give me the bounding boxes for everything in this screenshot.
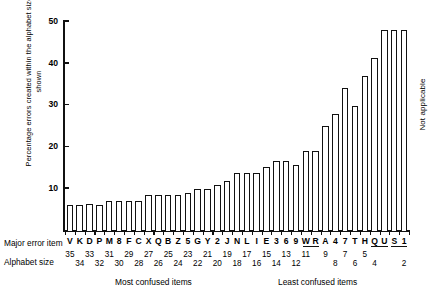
bar: [293, 165, 299, 231]
x-axis-tick: [340, 230, 341, 235]
alphabet-size-label: 8: [326, 260, 344, 268]
x-axis-tick: [281, 230, 282, 235]
x-axis-tick: [291, 230, 292, 235]
bar: [126, 201, 132, 231]
y-axis-tick-label: 30: [18, 100, 58, 109]
x-axis-tick: [94, 230, 95, 235]
bar: [352, 106, 358, 231]
bar: [332, 114, 338, 231]
alphabet-size-label: 19: [218, 251, 236, 259]
x-axis-tick: [360, 230, 361, 235]
x-axis-tick: [163, 230, 164, 235]
x-axis-tick: [271, 230, 272, 235]
chart-figure: Percentage errors created within the alp…: [0, 0, 434, 299]
x-axis-tick: [75, 230, 76, 235]
alphabet-size-label: 4: [366, 260, 384, 268]
x-axis-tick: [104, 230, 105, 235]
x-axis-tick: [153, 230, 154, 235]
y-axis-tick-label: 10: [18, 184, 58, 193]
bar: [322, 126, 328, 231]
bar: [401, 30, 407, 231]
x-axis-tick: [144, 230, 145, 235]
bar: [67, 205, 73, 231]
x-axis-tick: [330, 230, 331, 235]
x-axis-item-label: 1: [396, 237, 412, 246]
alphabet-size-label: 26: [149, 260, 167, 268]
group-underline: [371, 246, 387, 247]
bar: [116, 201, 122, 231]
group-underline: [391, 246, 407, 247]
bar: [224, 181, 230, 231]
bar: [76, 205, 82, 231]
x-axis-tick: [262, 230, 263, 235]
alphabet-size-label: 12: [287, 260, 305, 268]
bar: [391, 30, 397, 231]
alphabet-size-label: 24: [169, 260, 187, 268]
y-axis-tick-label: 40: [18, 59, 58, 68]
bar: [342, 88, 348, 231]
x-axis-tick: [409, 230, 410, 235]
alphabet-size-label: 15: [257, 251, 275, 259]
x-axis-tick: [193, 230, 194, 235]
alphabet-size-label: 34: [71, 260, 89, 268]
bar: [194, 189, 200, 231]
x-axis-tick: [380, 230, 381, 235]
group-underline: [303, 246, 319, 247]
x-axis-tick: [370, 230, 371, 235]
bar: [263, 167, 269, 231]
x-axis-tick: [203, 230, 204, 235]
alphabet-size-label: 13: [277, 251, 295, 259]
x-axis-tick: [173, 230, 174, 235]
y-axis-tick-label: 20: [18, 142, 58, 151]
x-axis-tick: [350, 230, 351, 235]
bars-area: [65, 20, 409, 231]
bar: [312, 151, 318, 231]
alphabet-size-label: 9: [316, 251, 334, 259]
bar: [234, 173, 240, 231]
alphabet-size-label: 30: [110, 260, 128, 268]
alphabet-size-label: 22: [189, 260, 207, 268]
bar: [145, 195, 151, 231]
bar: [244, 173, 250, 231]
alphabet-size-label: 31: [100, 251, 118, 259]
alphabet-size-label: 32: [90, 260, 108, 268]
x-axis-tick: [389, 230, 390, 235]
bar: [273, 161, 279, 231]
bar: [106, 201, 112, 231]
alphabet-size-label: 29: [120, 251, 138, 259]
alphabet-size-label: 35: [61, 251, 79, 259]
alphabet-size-label: 18: [228, 260, 246, 268]
alphabet-size-label: 25: [159, 251, 177, 259]
bar: [303, 151, 309, 231]
bar: [155, 195, 161, 231]
x-axis-tick: [301, 230, 302, 235]
bar: [362, 76, 368, 231]
row-caption-major-error-item: Major error item: [4, 239, 63, 247]
bar: [283, 161, 289, 231]
alphabet-size-label: 5: [356, 251, 374, 259]
x-axis-tick: [252, 230, 253, 235]
alphabet-size-label: 33: [81, 251, 99, 259]
x-axis-tick: [124, 230, 125, 235]
x-axis-tick: [222, 230, 223, 235]
alphabet-size-label: 2: [395, 260, 413, 268]
x-axis-tick: [65, 230, 66, 235]
bar: [381, 30, 387, 231]
x-axis-tick: [242, 230, 243, 235]
x-axis-tick: [321, 230, 322, 235]
alphabet-size-label: 20: [208, 260, 226, 268]
bar: [96, 205, 102, 231]
y-axis-tick-label: 50: [18, 17, 58, 26]
section-label-most-confused: Most confused items: [115, 277, 192, 287]
bar: [86, 204, 92, 231]
bar: [204, 189, 210, 231]
bar: [185, 193, 191, 231]
alphabet-size-label: 17: [238, 251, 256, 259]
alphabet-size-label: 23: [179, 251, 197, 259]
bar: [175, 195, 181, 231]
bar: [253, 173, 259, 231]
bar: [135, 201, 141, 231]
alphabet-size-label: 28: [130, 260, 148, 268]
section-label-least-confused: Least confused items: [278, 277, 357, 287]
alphabet-size-label: 6: [346, 260, 364, 268]
